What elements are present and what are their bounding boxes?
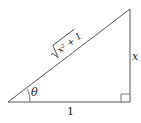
angle-arc	[28, 90, 31, 103]
right-triangle-diagram: θ 1 x x² + 1	[0, 0, 141, 123]
opposite-label: x	[132, 50, 139, 63]
angle-label: θ	[31, 86, 38, 99]
triangle	[8, 9, 130, 102]
radicand: x² + 1	[55, 31, 83, 56]
right-angle-marker	[121, 94, 130, 102]
adjacent-label: 1	[67, 105, 74, 118]
hypotenuse-label: x² + 1	[47, 28, 83, 60]
